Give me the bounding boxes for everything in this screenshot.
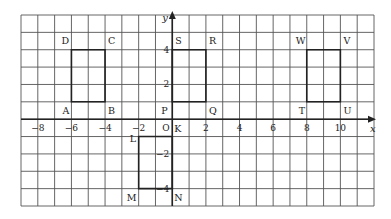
point-label-v: V bbox=[342, 35, 350, 46]
point-label-m: M bbox=[127, 192, 137, 203]
y-axis-label: y bbox=[161, 12, 168, 23]
point-label-n: N bbox=[174, 192, 182, 203]
x-tick-label: 2 bbox=[203, 123, 209, 133]
point-label-t: T bbox=[299, 105, 306, 116]
point-label-q: Q bbox=[209, 105, 217, 116]
x-tick-label: 6 bbox=[270, 123, 276, 133]
x-tick-label: −4 bbox=[98, 123, 112, 133]
y-tick-label: −2 bbox=[156, 149, 169, 159]
origin-label: O bbox=[162, 123, 169, 133]
x-tick-label: −6 bbox=[65, 123, 79, 133]
point-label-p: P bbox=[161, 105, 168, 116]
x-tick-label: −8 bbox=[31, 123, 45, 133]
y-tick-label: 2 bbox=[164, 79, 170, 89]
coordinate-grid-diagram: xy −8−6−4−224681042−2−4O ABCDPQRSTUVWKLM… bbox=[0, 0, 391, 219]
point-label-r: R bbox=[209, 35, 217, 46]
point-label-c: C bbox=[108, 35, 115, 46]
point-label-u: U bbox=[343, 105, 351, 116]
x-axis-label: x bbox=[370, 123, 376, 134]
x-tick-label: 4 bbox=[237, 123, 243, 133]
x-tick-label: 10 bbox=[335, 123, 347, 133]
point-label-w: W bbox=[296, 35, 306, 46]
point-label-k: K bbox=[174, 123, 182, 134]
x-tick-label: 8 bbox=[304, 123, 310, 133]
grid-lines bbox=[21, 15, 374, 206]
point-label-a: A bbox=[61, 105, 69, 116]
x-axis-arrow-icon bbox=[368, 116, 376, 123]
point-label-b: B bbox=[108, 105, 115, 116]
axes: xy bbox=[21, 11, 376, 206]
point-label-l: L bbox=[130, 133, 137, 144]
y-tick-label: −4 bbox=[156, 184, 170, 194]
y-tick-label: 4 bbox=[164, 45, 170, 55]
point-label-s: S bbox=[175, 35, 182, 46]
point-label-d: D bbox=[61, 35, 69, 46]
